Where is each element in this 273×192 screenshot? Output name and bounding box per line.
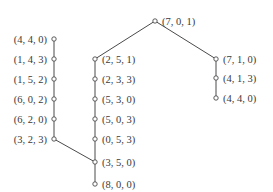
tree-node-marker (153, 19, 157, 23)
tree-node-marker (93, 117, 97, 121)
tree-node-marker (93, 97, 97, 101)
tree-node-marker (214, 76, 218, 80)
node-label: (7, 1, 0) (223, 54, 257, 66)
node-label: (6, 2, 0) (14, 114, 48, 126)
node-label: (5, 0, 3) (102, 114, 136, 126)
tree-node-marker (93, 57, 97, 61)
node-label: (6, 0, 2) (14, 94, 48, 106)
node-label: (4, 4, 0) (14, 34, 48, 46)
node-label: (5, 3, 0) (102, 94, 136, 106)
node-label: (0, 5, 3) (102, 134, 136, 146)
node-label: (1, 4, 3) (14, 54, 48, 66)
tree-node-marker (52, 137, 56, 141)
node-label: (2, 5, 1) (102, 54, 136, 66)
tree-node-marker (93, 160, 97, 164)
node-label: (4, 1, 3) (223, 73, 257, 85)
node-label: (3, 2, 3) (14, 134, 48, 146)
tree-node-marker (214, 96, 218, 100)
labels-layer: (7, 0, 1)(4, 4, 0)(1, 4, 3)(1, 5, 2)(6, … (14, 16, 257, 191)
tree-node-marker (214, 57, 218, 61)
node-label: (4, 4, 0) (223, 93, 257, 105)
node-label: (3, 5, 0) (102, 157, 136, 169)
node-label: (2, 3, 3) (102, 74, 136, 86)
tree-node-marker (52, 37, 56, 41)
tree-node-marker (52, 97, 56, 101)
tree-node-marker (52, 117, 56, 121)
node-label: (7, 0, 1) (162, 16, 196, 28)
node-label: (8, 0, 0) (102, 179, 136, 191)
node-label: (1, 5, 2) (14, 74, 48, 86)
tree-node-marker (93, 77, 97, 81)
tree-node-marker (52, 77, 56, 81)
state-tree-diagram: (7, 0, 1)(4, 4, 0)(1, 4, 3)(1, 5, 2)(6, … (0, 0, 273, 192)
tree-node-marker (93, 137, 97, 141)
tree-node-marker (52, 57, 56, 61)
tree-edge (54, 139, 95, 162)
tree-node-marker (93, 182, 97, 186)
